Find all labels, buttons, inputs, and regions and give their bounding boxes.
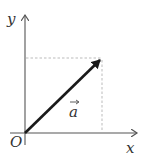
vector-label: a: [69, 103, 78, 121]
vector-a: [25, 60, 100, 133]
x-axis-label: x: [126, 139, 135, 157]
vector-diagram: y O x a: [0, 0, 149, 158]
y-axis-label: y: [6, 10, 16, 28]
origin-label: O: [10, 133, 22, 151]
